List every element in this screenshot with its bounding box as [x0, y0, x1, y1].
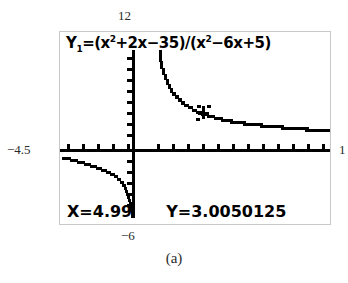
curve-right-branch [159, 50, 330, 132]
trace-y-value: Y=3.0050125 [166, 202, 286, 221]
equation-label: Y1=(x2+2x−35)/(x2−6x+5) [66, 34, 271, 52]
equation-part-2: +2x−35)/(x [116, 34, 206, 52]
window-xmin-label: −4.5 [7, 142, 31, 158]
graph-plot-area [60, 32, 330, 224]
window-ymax-label: 12 [118, 8, 131, 24]
y-axis-line [132, 50, 135, 218]
y-axis-ticks [127, 57, 132, 207]
x-axis-ticks [67, 144, 325, 149]
equation-y: Y [66, 34, 76, 52]
trace-x-value: X=4.99 [67, 202, 132, 221]
x-axis-line [60, 149, 330, 152]
trace-readout-bar: X=4.99Y=3.0050125 [67, 202, 325, 221]
figure-caption: (a) [0, 250, 348, 267]
window-xmax-label: 1 [339, 142, 346, 158]
figure-container: 12 −6 −4.5 1 [0, 0, 348, 283]
trace-cursor-icon [196, 105, 211, 121]
window-ymin-label: −6 [121, 228, 135, 244]
equation-part-3: −6x+5) [211, 34, 271, 52]
calculator-screen: Y1=(x2+2x−35)/(x2−6x+5) X=4.99Y=3.005012… [59, 31, 331, 225]
equation-part-1: =(x [82, 34, 110, 52]
